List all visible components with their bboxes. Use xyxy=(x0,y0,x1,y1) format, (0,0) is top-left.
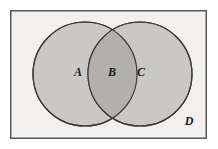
venn-diagram-canvas: A B C D xyxy=(0,0,218,149)
venn-diagram-figure: A B C D xyxy=(0,0,218,149)
set-c-label: C xyxy=(137,65,146,79)
universe-d-label: D xyxy=(184,114,194,128)
set-a-label: A xyxy=(73,65,82,79)
set-b-label: B xyxy=(107,65,116,79)
